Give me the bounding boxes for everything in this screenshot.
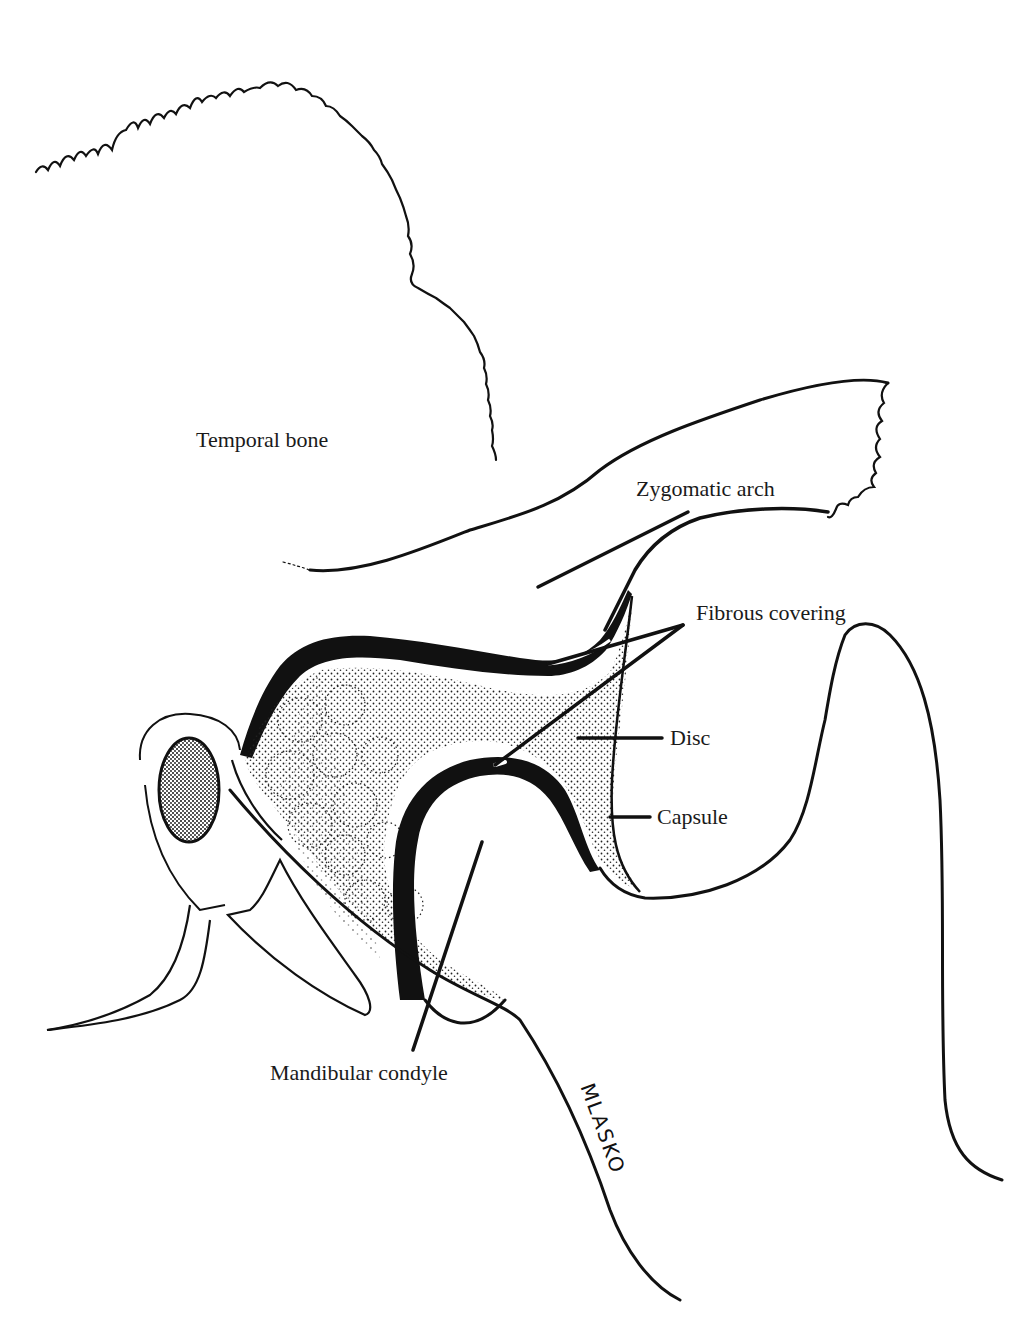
zygomatic-arch-outline <box>283 380 888 630</box>
external-auditory-meatus <box>140 714 240 910</box>
label-temporal-bone: Temporal bone <box>196 429 328 451</box>
anatomy-drawing <box>0 0 1031 1328</box>
label-capsule: Capsule <box>657 806 728 828</box>
label-disc: Disc <box>670 727 710 749</box>
label-fibrous-covering: Fibrous covering <box>696 602 846 624</box>
tmj-diagram: Temporal bone Zygomatic arch Fibrous cov… <box>0 0 1031 1328</box>
temporal-suture-line <box>36 82 496 460</box>
leader-zygomatic-arch <box>538 512 688 587</box>
label-mandibular-condyle: Mandibular condyle <box>270 1062 448 1084</box>
label-zygomatic-arch: Zygomatic arch <box>636 478 775 500</box>
